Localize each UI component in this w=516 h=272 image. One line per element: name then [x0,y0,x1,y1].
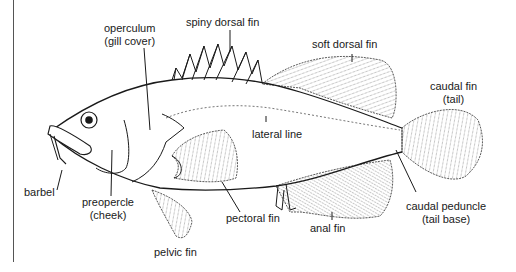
fish-anatomy-diagram: operculum (gill cover) spiny dorsal fin … [0,0,516,272]
label-lateral-line: lateral line [252,128,302,141]
label-soft-dorsal-fin: soft dorsal fin [312,38,377,51]
label-anal-fin-text: anal fin [310,222,345,235]
label-caudal-peduncle-line1: caudal peduncle [406,200,486,213]
anal-fin [276,160,393,218]
caudal-fin [402,110,482,180]
label-soft-dorsal-fin-text: soft dorsal fin [312,38,377,51]
label-caudal-fin-line1: caudal fin [430,80,477,93]
label-preopercle-line2: (cheek) [82,209,134,222]
label-pelvic-fin-text: pelvic fin [154,246,197,259]
label-anal-fin: anal fin [310,222,345,235]
label-pectoral-fin-text: pectoral fin [226,212,280,225]
label-caudal-peduncle-line2: (tail base) [406,213,486,226]
label-caudal-peduncle: caudal peduncle (tail base) [406,200,486,226]
label-caudal-fin-line2: (tail) [430,93,477,106]
label-spiny-dorsal-fin-text: spiny dorsal fin [186,16,259,29]
operculum-outline [132,114,184,182]
preopercle-outline [96,120,129,173]
label-barbel: barbel [24,186,55,199]
label-caudal-fin: caudal fin (tail) [430,80,477,106]
label-operculum: operculum (gill cover) [104,22,155,48]
label-spiny-dorsal-fin: spiny dorsal fin [186,16,259,29]
pectoral-fin [172,130,238,182]
label-barbel-text: barbel [24,186,55,199]
label-pectoral-fin: pectoral fin [226,212,280,225]
label-pelvic-fin: pelvic fin [154,246,197,259]
label-lateral-line-text: lateral line [252,128,302,141]
label-operculum-line1: operculum [104,22,155,35]
pelvic-fin [152,190,192,238]
label-operculum-line2: (gill cover) [104,35,155,48]
label-preopercle: preopercle (cheek) [82,196,134,222]
label-preopercle-line1: preopercle [82,196,134,209]
